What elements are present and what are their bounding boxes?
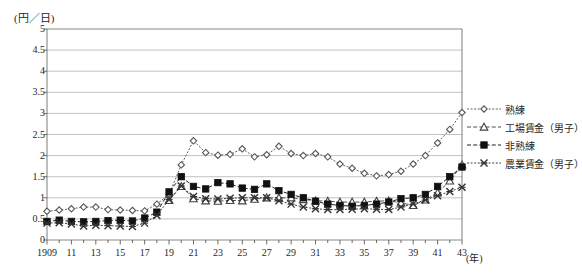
x-tick-label: 39 (408, 248, 418, 258)
legend-marker-x-icon (466, 155, 502, 171)
legend-label: 農業賃金（男子） (502, 156, 582, 171)
x-tick-label: 25 (237, 248, 247, 258)
x-tick-label: 33 (335, 248, 345, 258)
legend-item-3: 農業賃金（男子） (466, 154, 571, 172)
chart-legend: 熟練工場賃金（男子）非熟練農業賃金（男子） (466, 100, 571, 172)
legend-item-2: 非熟練 (466, 136, 571, 154)
x-tick-label: 27 (262, 248, 272, 258)
x-tick-label: 17 (140, 248, 150, 258)
x-tick-label: 43 (457, 248, 467, 258)
x-tick-label: 29 (286, 248, 296, 258)
x-tick-label: 37 (384, 248, 394, 258)
legend-label: 工場賃金（男子） (502, 120, 582, 135)
x-tick-label: 15 (115, 248, 125, 258)
legend-marker-triangle-icon (466, 119, 502, 135)
x-tick-label: 19 (164, 248, 174, 258)
x-tick-label: 21 (188, 248, 198, 258)
legend-marker-square-icon (466, 137, 502, 153)
legend-item-0: 熟練 (466, 100, 571, 118)
legend-item-1: 工場賃金（男子） (466, 118, 571, 136)
legend-marker-diamond-icon (466, 101, 502, 117)
legend-label: 非熟練 (502, 138, 534, 153)
x-tick-label: 41 (433, 248, 443, 258)
legend-label: 熟練 (502, 102, 525, 117)
x-tick-label: 11 (67, 248, 77, 258)
x-tick-label: 13 (91, 248, 101, 258)
x-tick-label: 31 (311, 248, 321, 258)
x-tick-label: 1909 (37, 248, 57, 258)
x-tick-label: 35 (359, 248, 369, 258)
x-tick-label: 23 (213, 248, 223, 258)
